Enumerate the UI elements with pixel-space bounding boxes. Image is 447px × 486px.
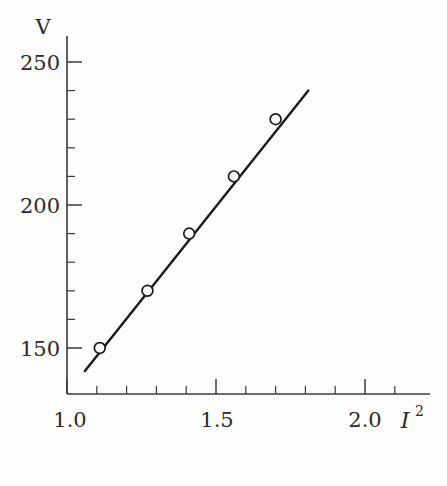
x-tick-label-2-0: 2.0 (348, 408, 381, 432)
data-point (184, 228, 195, 239)
x-axis-title-exponent: 2 (415, 403, 424, 419)
data-point (270, 114, 281, 125)
y-tick-label-250: 250 (20, 51, 60, 75)
x-axis-major-ticks (67, 379, 365, 394)
x-tick-label-1-0: 1.0 (53, 408, 86, 432)
data-point-markers (94, 114, 281, 354)
trend-line (85, 91, 309, 371)
x-axis-minor-ticks (97, 386, 395, 394)
data-point (94, 343, 105, 354)
y-axis-title: V (34, 15, 51, 39)
y-tick-label-150: 150 (20, 337, 60, 361)
y-axis-major-ticks (67, 62, 82, 348)
data-point (228, 171, 239, 182)
y-tick-label-200: 200 (20, 194, 60, 218)
chart-page: 250 200 150 V 1.0 1.5 2.0 I (0, 0, 447, 486)
x-axis-title: I 2 (400, 403, 424, 433)
x-tick-label-1-5: 1.5 (200, 408, 233, 432)
x-axis-title-base: I (400, 408, 411, 433)
data-point (142, 285, 153, 296)
scatter-line-plot: 250 200 150 V 1.0 1.5 2.0 I (0, 0, 447, 486)
